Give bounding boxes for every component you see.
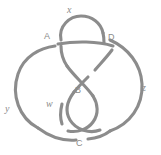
knot-strand-left-arc (15, 46, 55, 128)
knot-strand-center-cross-b-upper (95, 50, 112, 70)
knot-diagram-canvas (0, 0, 161, 155)
knot-label-x: x (67, 5, 71, 15)
knot-label-C: C (76, 139, 83, 148)
knot-strand-top-loop-left (61, 16, 103, 40)
knot-strand-horizontal-over-strand (58, 42, 113, 46)
knot-strand-w-strand-end (61, 104, 63, 124)
knot-strand-top-loop-right-upper (103, 33, 104, 43)
knot-label-A: A (44, 32, 50, 41)
knot-diagram-figure: xADBwzyC (0, 0, 161, 155)
knot-label-z: z (142, 83, 146, 93)
knot-strand-group (15, 16, 142, 140)
knot-strand-right-arc (110, 40, 142, 131)
knot-label-D: D (108, 33, 115, 42)
knot-strand-top-loop-left-descend (61, 46, 67, 66)
knot-label-y: y (5, 104, 9, 114)
knot-label-w: w (46, 99, 53, 109)
knot-label-B: B (75, 86, 81, 95)
knot-strand-inner-right-loop (68, 96, 97, 132)
